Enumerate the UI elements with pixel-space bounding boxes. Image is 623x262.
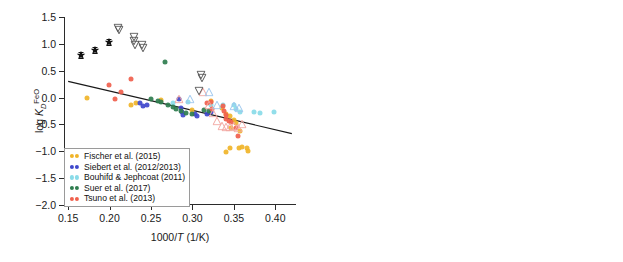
legend-dot: [75, 154, 79, 158]
legend-item: Fischer et al. (2015): [68, 151, 185, 162]
x-tick-mark: [192, 205, 193, 210]
x-tick-mark: [234, 205, 235, 210]
data-point: [149, 97, 154, 102]
data-point: [114, 25, 123, 34]
data-point: [112, 97, 117, 102]
data-point: [183, 110, 188, 115]
figure-root: log KDFeO 1000/T (1/K) 1.51.00.50.0−0.5−…: [0, 0, 623, 262]
x-tick-label: 0.25: [141, 212, 161, 224]
data-point: [234, 103, 243, 112]
legend-label: Suer et al. (2017): [84, 183, 150, 194]
x-tick-label: 0.40: [265, 212, 285, 224]
legend-label: Fischer et al. (2015): [84, 151, 160, 162]
y-tick-label: 1.5: [41, 11, 56, 23]
y-tick-label: −0.5: [35, 118, 56, 130]
y-tick-label: 0.5: [41, 65, 56, 77]
legend-marker-filled-circle: [68, 151, 81, 161]
data-point: [138, 44, 147, 53]
data-point: [195, 86, 204, 95]
y-tick-label: −1.5: [35, 172, 56, 184]
data-point: [205, 88, 214, 97]
y-tick-mark: [59, 71, 64, 72]
y-tick-mark: [59, 98, 64, 99]
x-axis-title-left: 1000/T (1/K): [151, 231, 209, 243]
legend-marker-filled-circle: [68, 183, 81, 193]
data-point: [227, 145, 232, 150]
x-tick-mark: [275, 205, 276, 210]
legend-dot: [70, 186, 74, 190]
x-tick-label: 0.35: [224, 212, 244, 224]
legend-dot: [75, 197, 79, 201]
legend-dot: [75, 165, 79, 169]
legend-dot: [75, 175, 79, 179]
legend-label: Siebert et al. (2012/2013): [84, 162, 181, 173]
data-point: [223, 150, 228, 155]
legend-marker-filled-circle: [68, 172, 81, 182]
y-tick-mark: [59, 17, 64, 18]
legend-dot: [70, 197, 74, 201]
y-tick-mark: [59, 44, 64, 45]
data-point: [106, 82, 111, 87]
data-point: [194, 114, 199, 119]
data-point: [251, 109, 256, 114]
y-tick-mark: [59, 124, 64, 125]
y-tick-label: −1.0: [35, 145, 56, 157]
data-point: [271, 110, 276, 115]
legend-label: Tsuno et al. (2013): [84, 193, 155, 204]
data-point: [119, 90, 124, 95]
x-tick-label: 0.30: [182, 212, 202, 224]
legend-left: Fischer et al. (2015)Siebert et al. (201…: [64, 148, 190, 207]
legend-item: Suer et al. (2017): [68, 183, 185, 194]
data-point: [77, 51, 86, 60]
data-point: [185, 94, 194, 103]
x-tick-label: 0.20: [99, 212, 119, 224]
y-tick-label: 1.0: [41, 38, 56, 50]
data-point: [190, 111, 195, 116]
legend-item: Tsuno et al. (2013): [68, 193, 185, 204]
panel-right: P (GPa) 1.51.00.50.0−0.5−1.0−1.5−2.00204…: [311, 0, 623, 262]
legend-dot: [70, 165, 74, 169]
data-point: [258, 110, 263, 115]
x-tick-label: 0.15: [58, 212, 78, 224]
data-point: [85, 95, 90, 100]
legend-item: Siebert et al. (2012/2013): [68, 162, 185, 173]
data-point: [163, 59, 168, 64]
data-point: [213, 100, 222, 109]
data-point: [158, 99, 163, 104]
data-point: [236, 134, 241, 139]
legend-marker-filled-circle: [68, 162, 81, 172]
legend-dot: [70, 175, 74, 179]
legend-marker-filled-circle: [68, 194, 81, 204]
data-point: [144, 102, 149, 107]
legend-item: Bouhifd & Jephcoat (2011): [68, 172, 185, 183]
y-tick-label: −2.0: [35, 199, 56, 211]
data-point: [245, 149, 250, 154]
data-point: [90, 45, 99, 54]
legend-dot: [75, 186, 79, 190]
data-point: [238, 120, 247, 129]
data-point: [175, 95, 184, 104]
data-point: [104, 38, 113, 47]
legend-label: Bouhifd & Jephcoat (2011): [84, 172, 185, 183]
data-point: [197, 73, 206, 82]
legend-dot: [70, 154, 74, 158]
data-point: [129, 76, 134, 81]
y-tick-label: 0.0: [41, 92, 56, 104]
panel-left: log KDFeO 1000/T (1/K) 1.51.00.50.0−0.5−…: [0, 0, 311, 262]
